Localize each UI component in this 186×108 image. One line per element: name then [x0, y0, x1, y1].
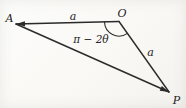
side-op-length-label: a [147, 46, 154, 59]
side-ao-length-label: a [70, 10, 77, 23]
vertex-a-label: A [5, 12, 14, 25]
vertex-o-label: O [117, 7, 126, 20]
side-ao-line [16, 22, 119, 25]
vertex-p-label: P [172, 94, 181, 107]
angle-at-o-label: π − 2θ [72, 33, 109, 45]
triangle-diagram: A O P a a π − 2θ [0, 0, 186, 108]
diagram-canvas: A O P a a π − 2θ [0, 0, 186, 108]
